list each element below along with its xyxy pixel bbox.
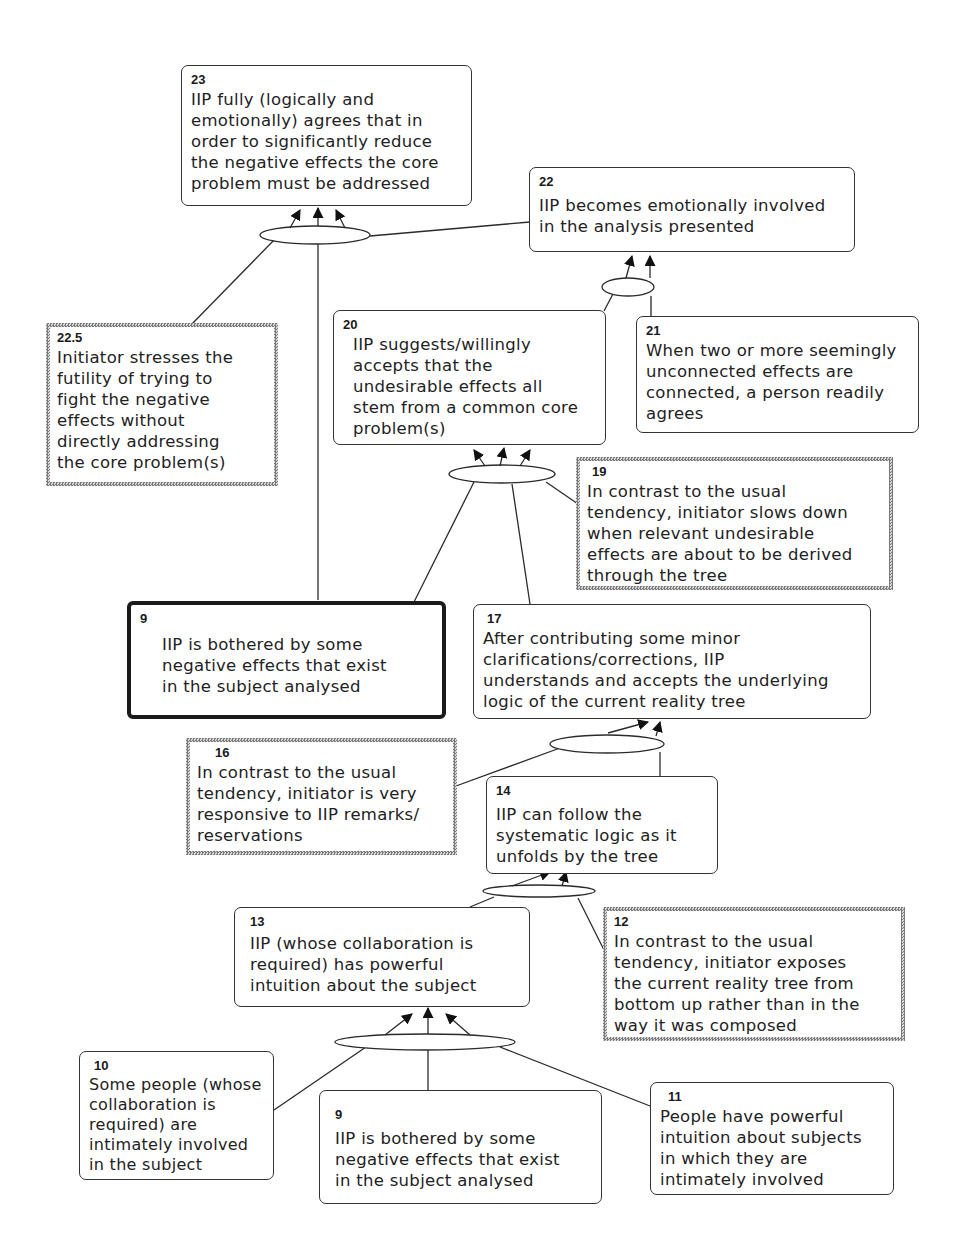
node-9-leaf[interactable]: 9 IIP is bothered by some negative effec… bbox=[319, 1090, 602, 1204]
node-text: Some people (whose collaboration is requ… bbox=[89, 1075, 264, 1175]
node-19[interactable]: 19 In contrast to the usual tendency, in… bbox=[576, 457, 893, 590]
and-ellipse-13 bbox=[335, 1034, 515, 1050]
node-22.5[interactable]: 22.5 Initiator stresses the futility of … bbox=[46, 323, 278, 486]
node-13[interactable]: 13 IIP (whose collaboration is required)… bbox=[234, 907, 530, 1007]
node-number: 14 bbox=[496, 783, 708, 798]
node-text: IIP suggests/willingly accepts that the … bbox=[343, 334, 596, 439]
node-number: 12 bbox=[614, 914, 894, 929]
node-number: 16 bbox=[197, 745, 446, 760]
node-20[interactable]: 20 IIP suggests/willingly accepts that t… bbox=[333, 310, 606, 445]
node-text: IIP fully (logically and emotionally) ag… bbox=[191, 89, 462, 194]
node-21[interactable]: 21 When two or more seemingly unconnecte… bbox=[636, 316, 919, 433]
node-number: 23 bbox=[191, 72, 462, 87]
connector-9-to-and20 bbox=[414, 482, 474, 602]
connector-22.5-to-and23 bbox=[190, 238, 276, 326]
node-number: 22 bbox=[539, 174, 845, 189]
connector-17-to-and20 bbox=[512, 484, 530, 604]
node-23[interactable]: 23 IIP fully (logically and emotionally)… bbox=[181, 65, 472, 206]
node-14[interactable]: 14 IIP can follow the systematic logic a… bbox=[486, 776, 718, 874]
node-number: 13 bbox=[244, 914, 520, 929]
node-17[interactable]: 17 After contributing some minor clarifi… bbox=[473, 604, 871, 719]
connector-19-to-and20 bbox=[546, 482, 578, 504]
node-12[interactable]: 12 In contrast to the usual tendency, in… bbox=[603, 907, 905, 1041]
node-10[interactable]: 10 Some people (whose collaboration is r… bbox=[79, 1051, 274, 1180]
node-number: 9 bbox=[329, 1107, 592, 1122]
current-reality-tree-diagram: 23 IIP fully (logically and emotionally)… bbox=[0, 0, 966, 1260]
node-number: 11 bbox=[660, 1089, 884, 1104]
node-text: When two or more seemingly unconnected e… bbox=[646, 340, 909, 424]
node-text: IIP is bothered by some negative effects… bbox=[140, 634, 433, 697]
node-9-root-cause[interactable]: 9 IIP is bothered by some negative effec… bbox=[127, 601, 446, 719]
and-ellipse-20 bbox=[449, 465, 555, 483]
node-text: IIP can follow the systematic logic as i… bbox=[496, 804, 708, 867]
node-text: In contrast to the usual tendency, initi… bbox=[587, 481, 882, 586]
node-number: 22.5 bbox=[57, 330, 267, 345]
node-text: IIP (whose collaboration is required) ha… bbox=[244, 933, 520, 996]
node-16[interactable]: 16 In contrast to the usual tendency, in… bbox=[186, 738, 457, 855]
node-number: 17 bbox=[483, 611, 861, 626]
node-number: 9 bbox=[140, 611, 433, 626]
node-text: Initiator stresses the futility of tryin… bbox=[57, 347, 267, 473]
connector-22-to-and23 bbox=[370, 222, 530, 236]
node-text: IIP is bothered by some negative effects… bbox=[329, 1128, 592, 1191]
node-number: 19 bbox=[587, 464, 882, 479]
and-ellipse-23 bbox=[260, 226, 370, 244]
node-22[interactable]: 22 IIP becomes emotionally involved in t… bbox=[529, 167, 855, 252]
node-text: In contrast to the usual tendency, initi… bbox=[197, 762, 446, 846]
node-11[interactable]: 11 People have powerful intuition about … bbox=[650, 1082, 894, 1195]
and-ellipse-14 bbox=[483, 885, 595, 897]
node-text: IIP becomes emotionally involved in the … bbox=[539, 195, 845, 237]
and-ellipse-17 bbox=[550, 735, 664, 753]
node-text: People have powerful intuition about sub… bbox=[660, 1106, 884, 1190]
connector-12-to-and14 bbox=[578, 898, 604, 950]
node-number: 20 bbox=[343, 317, 596, 332]
node-text: In contrast to the usual tendency, initi… bbox=[614, 931, 894, 1036]
node-text: After contributing some minor clarificat… bbox=[483, 628, 861, 712]
node-number: 10 bbox=[89, 1058, 264, 1073]
connector-13-to-and14 bbox=[470, 897, 494, 907]
node-number: 21 bbox=[646, 323, 909, 338]
and-ellipse-22 bbox=[602, 278, 654, 296]
